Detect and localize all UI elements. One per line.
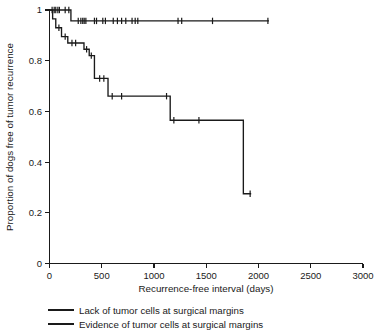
survival-curve-evidence [50,10,252,197]
x-tick-label-2000: 2000 [248,270,269,281]
axis-layer [50,10,364,264]
y-tick-label-0.2: 0.2 [29,207,42,218]
km-plot-svg: 050010001500200025003000 00.20.40.60.81 … [0,0,383,300]
x-tick-label-2500: 2500 [300,270,321,281]
survival-curves [50,7,269,197]
x-tick-label-1000: 1000 [143,270,164,281]
y-axis-title: Proportion of dogs free of tumor recurre… [4,43,15,231]
legend-label-evidence: Evidence of tumor cells at surgical marg… [79,319,263,330]
x-tick-label-0: 0 [47,270,52,281]
survival-curve-lack [50,7,269,24]
y-tick-label-1: 1 [37,4,42,15]
legend-item-evidence: Evidence of tumor cells at surgical marg… [48,317,348,331]
y-axis-ticks: 00.20.40.60.81 [29,4,50,269]
x-tick-label-3000: 3000 [352,270,373,281]
x-axis-title: Recurrence-free interval (days) [138,283,273,294]
x-tick-label-500: 500 [94,270,110,281]
x-axis-ticks: 050010001500200025003000 [47,264,374,282]
legend-line-swatch-lack [48,309,74,311]
legend-line-swatch-evidence [48,323,74,325]
legend-item-lack: Lack of tumor cells at surgical margins [48,303,348,317]
legend-label-lack: Lack of tumor cells at surgical margins [79,305,244,316]
y-tick-label-0.8: 0.8 [29,55,42,66]
kaplan-meier-figure: 050010001500200025003000 00.20.40.60.81 … [0,0,383,335]
chart-legend: Lack of tumor cells at surgical margins … [48,303,348,331]
y-tick-label-0.4: 0.4 [29,157,42,168]
y-tick-label-0: 0 [37,258,42,269]
y-tick-label-0.6: 0.6 [29,106,42,117]
x-tick-label-1500: 1500 [196,270,217,281]
curve-path [50,10,252,194]
